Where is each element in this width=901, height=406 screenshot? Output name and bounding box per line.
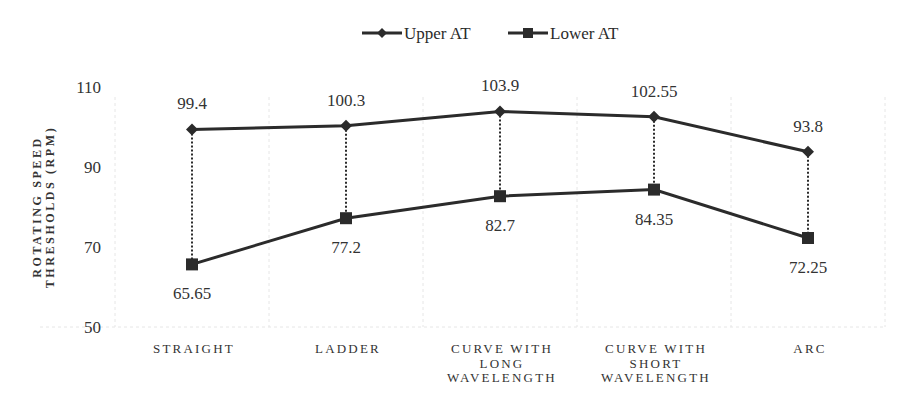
data-label: 84.35 (635, 210, 673, 229)
x-tick-label: SHORT (630, 356, 683, 371)
y-tick-label: 110 (76, 78, 101, 97)
data-label: 102.55 (631, 82, 678, 101)
chart: 507090110 ROTATING SPEEDTHRESHOLDS (RPM)… (0, 0, 901, 406)
square-marker (802, 232, 814, 244)
data-label: 82.7 (485, 216, 515, 235)
data-label: 103.9 (481, 76, 519, 95)
diamond-marker (802, 146, 814, 158)
square-marker (494, 190, 506, 202)
data-label: 77.2 (331, 238, 361, 257)
data-label: 72.25 (789, 258, 827, 277)
x-tick-label: ARC (793, 341, 826, 356)
y-axis-ticks: 507090110 (76, 78, 101, 337)
data-label: 100.3 (327, 91, 365, 110)
data-label: 93.8 (793, 117, 823, 136)
gridlines (40, 97, 885, 327)
x-tick-label: LONG (480, 356, 525, 371)
x-axis-ticks: STRAIGHTLADDERCURVE WITHLONGWAVELENGTHCU… (153, 341, 827, 385)
diamond-marker (494, 105, 506, 117)
drop-lines (192, 111, 808, 264)
square-marker (340, 212, 352, 224)
legend-label-upper: Upper AT (404, 24, 471, 43)
y-tick-label: 50 (84, 318, 101, 337)
y-axis-label-line: ROTATING SPEED (30, 136, 44, 278)
x-tick-label: CURVE WITH (605, 341, 707, 356)
y-tick-label: 90 (84, 158, 101, 177)
x-tick-label: STRAIGHT (153, 341, 235, 356)
legend-label-lower: Lower AT (550, 24, 619, 43)
diamond-marker (648, 111, 660, 123)
x-tick-label: WAVELENGTH (601, 370, 711, 385)
x-tick-label: LADDER (315, 341, 381, 356)
square-marker (648, 184, 660, 196)
diamond-icon (377, 28, 387, 38)
legend: Upper ATLower AT (362, 24, 619, 43)
y-axis-label-line: THRESHOLDS (RPM) (43, 126, 57, 289)
x-tick-label: CURVE WITH (451, 341, 553, 356)
y-axis-label: ROTATING SPEEDTHRESHOLDS (RPM) (30, 126, 57, 289)
square-icon (523, 28, 533, 38)
data-label: 99.4 (177, 94, 207, 113)
y-tick-label: 70 (84, 238, 101, 257)
diamond-marker (340, 120, 352, 132)
x-tick-label: WAVELENGTH (447, 370, 557, 385)
data-label: 65.65 (173, 284, 211, 303)
square-marker (186, 258, 198, 270)
diamond-marker (186, 123, 198, 135)
